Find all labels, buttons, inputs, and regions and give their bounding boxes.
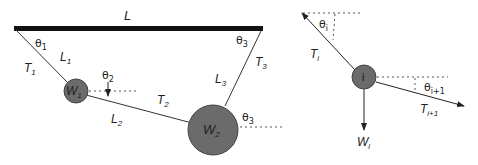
left-diagram: L θ1 L1 T1 W1 θ2 T2 L2 θ3 T3 L3 bbox=[14, 8, 285, 155]
tension-label-2: T2 bbox=[157, 93, 169, 109]
length-label-2: L2 bbox=[111, 112, 123, 128]
cable-segment-2 bbox=[86, 95, 192, 123]
node-i: i bbox=[352, 65, 376, 89]
length-label-3: L3 bbox=[215, 72, 227, 88]
tension-label-1: T1 bbox=[24, 61, 36, 77]
length-label-1: L1 bbox=[60, 50, 71, 66]
angle-theta-i-plus-1: θi+1 bbox=[424, 81, 445, 96]
weight-label: Wi bbox=[357, 135, 370, 151]
tension-in-label: Ti bbox=[310, 47, 319, 63]
cable-weight-diagram: L θ1 L1 T1 W1 θ2 T2 L2 θ3 T3 L3 bbox=[0, 0, 478, 165]
angle-theta-2: θ2 bbox=[102, 69, 114, 84]
angle-theta-i: θi bbox=[319, 18, 328, 33]
angle-theta-3-top: θ3 bbox=[236, 34, 248, 49]
reference-line-vertical bbox=[333, 14, 335, 40]
angle-theta-1: θ1 bbox=[35, 37, 47, 52]
mass-w2: W2 bbox=[188, 105, 238, 155]
mass-w1: W1 bbox=[64, 79, 88, 103]
angle-theta-3-bottom: θ3 bbox=[242, 111, 254, 126]
node-i-label: i bbox=[362, 71, 364, 83]
tension-label-3: T3 bbox=[255, 55, 267, 71]
tension-in-arrow bbox=[302, 13, 355, 70]
tension-out-label: Ti+1 bbox=[420, 102, 438, 118]
ceiling-length-label: L bbox=[124, 8, 131, 23]
ceiling-bar bbox=[14, 26, 263, 31]
right-diagram: θi Ti θi+1 Ti+1 Wi i bbox=[302, 13, 464, 151]
